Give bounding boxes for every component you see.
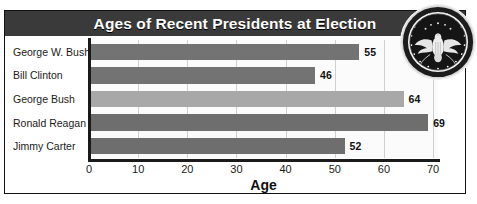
category-label: Ronald Reagan xyxy=(13,111,93,135)
bar-row: 64 xyxy=(89,91,438,108)
y-axis-line xyxy=(88,38,91,160)
x-tick-label: 0 xyxy=(69,163,109,175)
bar-value-label: 52 xyxy=(350,140,362,152)
bar-row: 69 xyxy=(89,114,438,131)
plot-area: 5546646952 xyxy=(89,40,438,158)
x-tick-label: 10 xyxy=(118,163,158,175)
x-tick-label: 20 xyxy=(167,163,207,175)
bar xyxy=(89,91,404,108)
bar xyxy=(89,44,359,61)
bar xyxy=(89,67,315,84)
x-tick-label: 50 xyxy=(315,163,355,175)
bar xyxy=(89,138,345,155)
bar-row: 52 xyxy=(89,138,438,155)
presidential-seal-icon xyxy=(399,3,477,81)
bar-row: 55 xyxy=(89,44,438,61)
bar xyxy=(89,114,428,131)
bar-value-label: 69 xyxy=(433,117,445,129)
bar-value-label: 46 xyxy=(320,69,332,81)
x-axis-title: Age xyxy=(89,177,438,193)
x-axis-line xyxy=(88,159,440,162)
bar-value-label: 55 xyxy=(364,46,376,58)
category-label: George Bush xyxy=(13,87,93,111)
x-tick-label: 40 xyxy=(266,163,306,175)
chart-title: Ages of Recent Presidents at Election xyxy=(5,11,465,36)
chart-title-bar: Ages of Recent Presidents at Election xyxy=(5,11,465,36)
plot-wrapper: George W. BushBill ClintonGeorge BushRon… xyxy=(5,36,465,195)
bar-row: 46 xyxy=(89,67,438,84)
category-axis: George W. BushBill ClintonGeorge BushRon… xyxy=(5,36,89,158)
chart-figure: Ages of Recent Presidents at Election Ge… xyxy=(4,10,466,194)
x-tick-label: 30 xyxy=(216,163,256,175)
category-label: George W. Bush xyxy=(13,40,93,64)
category-label: Jimmy Carter xyxy=(13,134,93,158)
x-tick-label: 60 xyxy=(364,163,404,175)
x-tick-label: 70 xyxy=(413,163,453,175)
bar-value-label: 64 xyxy=(409,93,421,105)
category-label: Bill Clinton xyxy=(13,63,93,87)
